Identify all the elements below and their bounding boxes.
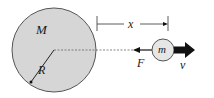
radius-arrowhead-icon — [30, 81, 33, 84]
satellite-mass-label: m — [158, 43, 166, 55]
force-label: F — [136, 56, 145, 70]
force-arrowhead-icon — [133, 47, 140, 53]
velocity-label: v — [180, 58, 186, 72]
distance-label: x — [127, 17, 134, 31]
planet-mass-label: M — [35, 22, 48, 37]
velocity-arrow-shaft — [174, 47, 186, 54]
dimension-arrowhead-icon — [163, 22, 168, 26]
orbit-diagram: M R x F m v — [0, 0, 214, 98]
velocity-arrowhead-icon — [185, 42, 195, 58]
radius-label: R — [37, 63, 46, 77]
